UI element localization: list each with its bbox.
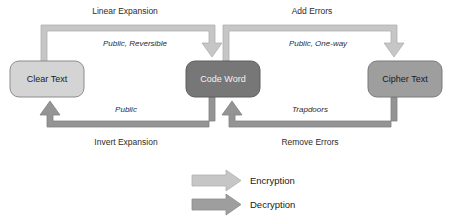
node-clear-text-label: Clear Text xyxy=(27,74,68,84)
edge-label-public: Public xyxy=(115,105,137,114)
legend-item-decryption: Decryption xyxy=(192,194,295,215)
legend-decryption-arrow-icon xyxy=(192,194,241,215)
legend-item-encryption: Encryption xyxy=(192,170,295,191)
node-cipher-text-label: Cipher Text xyxy=(382,74,428,84)
legend-encryption-arrow-icon xyxy=(192,170,241,191)
cryptosystem-flow-diagram: Linear Expansion Public, Reversible Add … xyxy=(0,0,454,224)
edge-label-add-errors: Add Errors xyxy=(292,6,333,16)
edge-label-invert-expansion: Invert Expansion xyxy=(94,137,158,147)
node-code-word-label: Code Word xyxy=(200,74,245,84)
node-cipher-text[interactable]: Cipher Text xyxy=(368,61,442,97)
edge-label-public-one-way: Public, One-way xyxy=(289,39,348,48)
legend-label-encryption: Encryption xyxy=(250,175,295,186)
edge-label-linear-expansion: Linear Expansion xyxy=(92,6,158,16)
node-clear-text[interactable]: Clear Text xyxy=(10,61,84,97)
diagram-canvas: Linear Expansion Public, Reversible Add … xyxy=(0,0,454,224)
legend-label-decryption: Decryption xyxy=(250,199,295,210)
legend: Encryption Decryption xyxy=(192,170,295,215)
node-code-word[interactable]: Code Word xyxy=(186,61,260,97)
edge-label-remove-errors: Remove Errors xyxy=(281,137,338,147)
edge-label-trapdoors: Trapdoors xyxy=(292,105,328,114)
edge-label-public-reversible: Public, Reversible xyxy=(103,39,168,48)
